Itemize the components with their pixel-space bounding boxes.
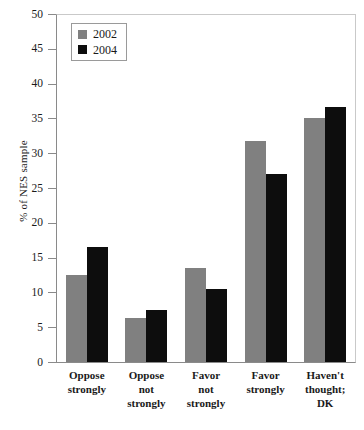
bar-2002 bbox=[304, 118, 325, 362]
bar-group bbox=[236, 14, 296, 362]
bar-2002 bbox=[245, 141, 266, 362]
bar-2002 bbox=[185, 268, 206, 362]
legend-swatch-icon-2002 bbox=[78, 30, 87, 39]
y-axis-title: % of NES sample bbox=[17, 111, 29, 251]
y-axis-tick-label: 20 bbox=[32, 218, 49, 230]
bar-2004 bbox=[325, 107, 346, 362]
y-axis-tick: 0 bbox=[48, 362, 56, 363]
legend-label-2004: 2004 bbox=[93, 44, 117, 57]
y-axis-tick-mark bbox=[48, 49, 56, 50]
y-axis-tick: 35 bbox=[48, 118, 56, 119]
y-axis-tick-mark bbox=[48, 223, 56, 224]
y-axis-tick: 10 bbox=[48, 292, 56, 293]
y-axis-tick-mark bbox=[48, 292, 56, 293]
x-axis-label-line: Oppose bbox=[58, 368, 116, 382]
bar-group bbox=[117, 14, 177, 362]
x-axis-label-line: Oppose bbox=[118, 368, 176, 382]
x-axis-labels: OpposestronglyOpposenotstronglyFavornots… bbox=[57, 368, 355, 410]
y-axis-tick-mark bbox=[48, 14, 56, 15]
y-axis-tick: 20 bbox=[48, 223, 56, 224]
y-axis-tick-mark bbox=[48, 153, 56, 154]
x-axis-label-line: Favor bbox=[237, 368, 295, 382]
y-axis-tick: 50 bbox=[48, 14, 56, 15]
x-axis-label-line: not bbox=[118, 382, 176, 396]
y-axis-tick-mark bbox=[48, 188, 56, 189]
legend-item-2004: 2004 bbox=[78, 44, 117, 57]
y-axis-tick-label: 25 bbox=[32, 183, 49, 195]
bar-chart: % of NES sample 05101520253035404550 200… bbox=[0, 0, 364, 430]
legend-swatch-icon-2004 bbox=[78, 45, 87, 54]
bar-2004 bbox=[87, 247, 108, 362]
x-axis-label: Haven'tthought;DK bbox=[295, 368, 355, 410]
bars-layer bbox=[57, 14, 355, 362]
y-axis-tick: 15 bbox=[48, 258, 56, 259]
y-axis-tick-label: 45 bbox=[32, 44, 49, 56]
y-axis-tick: 30 bbox=[48, 153, 56, 154]
y-axis-tick-mark bbox=[48, 362, 56, 363]
x-axis-label-line: thought; bbox=[296, 382, 354, 396]
y-axis-tick: 45 bbox=[48, 49, 56, 50]
x-axis-label-line: strongly bbox=[177, 396, 235, 410]
y-axis-tick: 5 bbox=[48, 327, 56, 328]
x-axis-label: Favorstrongly bbox=[236, 368, 296, 410]
y-axis-tick-label: 0 bbox=[37, 357, 48, 369]
y-axis-tick-mark bbox=[48, 258, 56, 259]
y-axis-tick-label: 15 bbox=[32, 252, 49, 264]
y-axis-tick-label: 50 bbox=[32, 9, 49, 21]
bar-2004 bbox=[146, 310, 167, 362]
x-axis-label: Opposenotstrongly bbox=[117, 368, 177, 410]
chart-legend: 2002 2004 bbox=[71, 23, 127, 61]
y-axis-tick-mark bbox=[48, 327, 56, 328]
legend-label-2002: 2002 bbox=[93, 28, 117, 41]
bar-group bbox=[295, 14, 355, 362]
bar-group bbox=[176, 14, 236, 362]
bar-2004 bbox=[266, 174, 287, 362]
x-axis-label-line: Haven't bbox=[296, 368, 354, 382]
bar-2004 bbox=[206, 289, 227, 362]
legend-item-2002: 2002 bbox=[78, 28, 117, 41]
y-axis-tick: 40 bbox=[48, 84, 56, 85]
y-axis-tick-label: 5 bbox=[37, 322, 48, 334]
bar-group bbox=[57, 14, 117, 362]
y-axis-tick-label: 30 bbox=[32, 148, 49, 160]
x-axis-label: Opposestrongly bbox=[57, 368, 117, 410]
x-axis-label-line: not bbox=[177, 382, 235, 396]
x-axis-label-line: strongly bbox=[58, 382, 116, 396]
y-axis-tick-label: 35 bbox=[32, 113, 49, 125]
y-axis-tick-label: 10 bbox=[32, 287, 49, 299]
x-axis-label-line: strongly bbox=[237, 382, 295, 396]
y-axis-tick-mark bbox=[48, 84, 56, 85]
x-axis-label-line: Favor bbox=[177, 368, 235, 382]
x-axis-label: Favornotstrongly bbox=[176, 368, 236, 410]
bar-2002 bbox=[125, 318, 146, 362]
y-axis-tick-mark bbox=[48, 118, 56, 119]
y-axis-tick-label: 40 bbox=[32, 78, 49, 90]
x-axis-label-line: strongly bbox=[118, 396, 176, 410]
bar-2002 bbox=[66, 275, 87, 362]
y-axis-tick: 25 bbox=[48, 188, 56, 189]
x-axis-label-line: DK bbox=[296, 396, 354, 410]
